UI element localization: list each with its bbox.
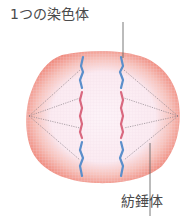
cell-diagram [0,0,184,216]
chromosome-label: 1つの染色体 [10,6,89,22]
spindle-label: 紡錘体 [121,193,163,209]
cytoplasm-texture [26,51,180,183]
